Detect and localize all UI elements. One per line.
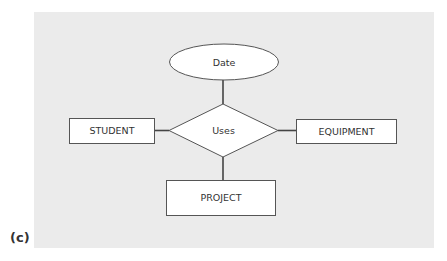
entity-equipment-label: EQUIPMENT [318, 126, 374, 137]
er-diagram: Date Uses STUDENT EQUIPMENT PROJECT [0, 0, 447, 261]
attribute-date: Date [170, 44, 279, 80]
entity-student: STUDENT [70, 119, 155, 144]
attribute-date-label: Date [213, 57, 236, 68]
entity-equipment: EQUIPMENT [297, 120, 397, 144]
entity-student-label: STUDENT [89, 125, 134, 136]
relationship-uses: Uses [169, 104, 278, 157]
entity-project-label: PROJECT [200, 192, 241, 203]
relationship-uses-label: Uses [212, 125, 235, 136]
figure-label: (c) [10, 230, 30, 245]
entity-project: PROJECT [167, 181, 276, 216]
